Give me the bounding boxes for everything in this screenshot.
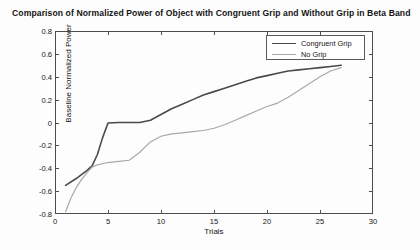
chart-legend: Congruent Grip No Grip: [266, 35, 365, 60]
legend-swatch-congruent-grip: [272, 43, 296, 44]
legend-label-congruent-grip: Congruent Grip: [301, 39, 352, 48]
x-tick-label: 15: [194, 217, 234, 226]
y-tick-label: -0.6: [12, 187, 52, 196]
x-tick-label: 5: [88, 217, 128, 226]
legend-item-no-grip: No Grip: [267, 48, 366, 60]
y-tick-label: 0: [12, 118, 52, 127]
x-axis-label: Trials: [55, 227, 373, 236]
x-tick-label: 20: [247, 217, 287, 226]
x-tick-label: 30: [353, 217, 393, 226]
legend-swatch-no-grip: [272, 54, 296, 55]
y-axis-label: Baseline Normalized Power: [64, 19, 73, 129]
data-series-group: [66, 65, 342, 211]
x-tick-label: 25: [300, 217, 340, 226]
y-tick-label: -0.2: [12, 141, 52, 150]
x-tick-label: 0: [35, 217, 75, 226]
y-tick-label: 0.6: [12, 49, 52, 58]
y-tick-label: 0.8: [12, 27, 52, 36]
chart-title: Comparison of Normalized Power of Object…: [12, 8, 412, 18]
y-tick-label: -0.4: [12, 164, 52, 173]
chart-figure: Comparison of Normalized Power of Object…: [0, 0, 420, 250]
y-tick-label: 0.2: [12, 95, 52, 104]
x-tick-label: 10: [141, 217, 181, 226]
plot-area: Baseline Normalized Power Trials -0.8-0.…: [55, 31, 373, 214]
legend-label-no-grip: No Grip: [301, 50, 326, 59]
y-tick-label: 0.4: [12, 72, 52, 81]
